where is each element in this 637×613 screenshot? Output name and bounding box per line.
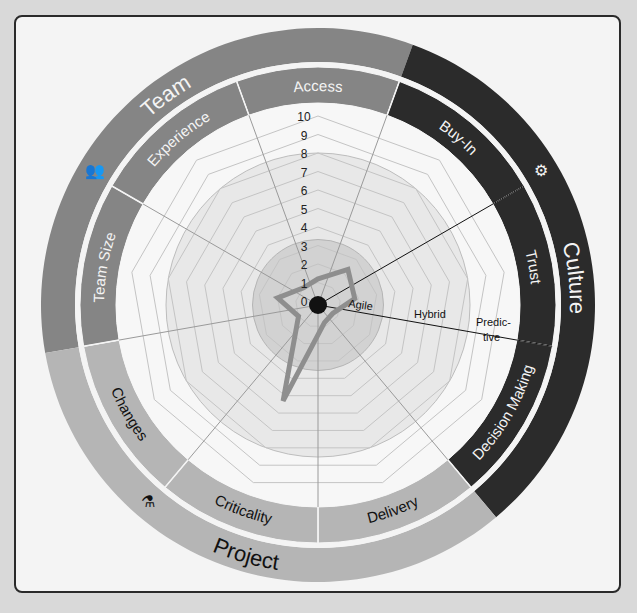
zone-label-predictive-2: tive <box>483 331 500 343</box>
axis-label: Access <box>293 77 344 95</box>
tick-label: 5 <box>301 203 308 217</box>
tick-label: 6 <box>301 184 308 198</box>
center-dot <box>309 296 327 314</box>
zone-label-hybrid: Hybrid <box>414 308 446 320</box>
people-icon: 👥 <box>85 162 105 180</box>
tick-label: 2 <box>301 258 308 272</box>
tick-label: 8 <box>301 147 308 161</box>
head-gears-icon: ⚙ <box>534 162 548 179</box>
radar-chart: 012345678910 AccessBuy-InTrustDecision M… <box>0 0 637 613</box>
zone-label-predictive-1: Predic- <box>476 316 511 328</box>
tick-label: 0 <box>301 295 308 309</box>
tick-label: 1 <box>301 277 308 291</box>
tick-label: 10 <box>297 110 311 124</box>
tick-label: 3 <box>301 240 308 254</box>
tick-label: 7 <box>301 166 308 180</box>
flask-icon: ⚗ <box>141 493 155 510</box>
tick-label: 9 <box>301 129 308 143</box>
tick-label: 4 <box>301 221 308 235</box>
